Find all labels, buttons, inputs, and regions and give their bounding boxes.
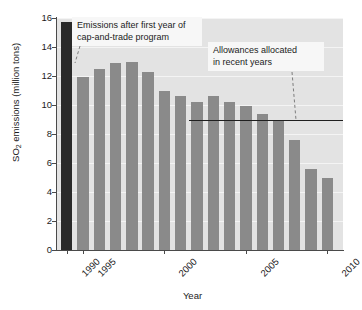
y-axis-tick <box>52 18 56 19</box>
y-axis-tick <box>52 163 56 164</box>
y-axis-tick <box>52 192 56 193</box>
y-axis-tick <box>52 105 56 106</box>
y-axis-tick <box>52 76 56 77</box>
y-axis-tick <box>52 47 56 48</box>
y-axis-tick <box>52 250 56 251</box>
y-axis-tick <box>52 134 56 135</box>
y-axis-tick <box>52 221 56 222</box>
